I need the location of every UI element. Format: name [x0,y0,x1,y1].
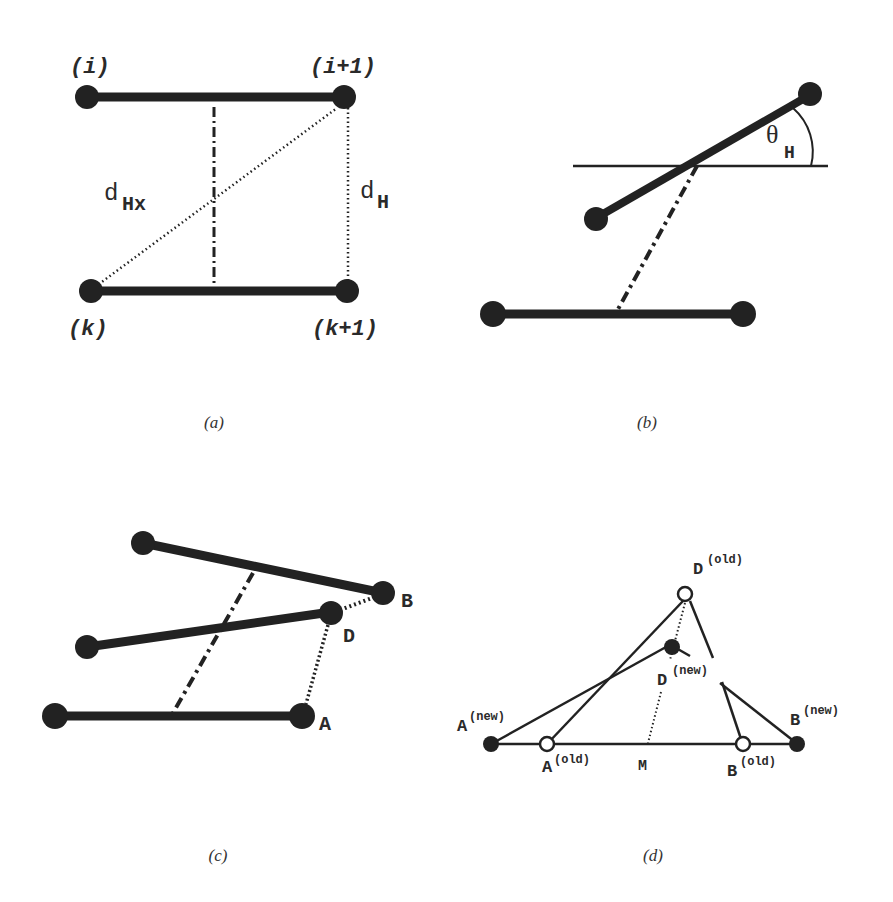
label-B-new-main: B [790,711,800,730]
label-B: B [401,590,413,613]
panel-c: B D A (c) [42,531,413,865]
node-A-new [483,736,499,752]
node-i [75,85,99,109]
node-B-new [789,736,805,752]
label-dH-sub: H [377,191,389,214]
label-i-plus-1: (i+1) [310,55,376,80]
node-D-old [678,587,692,601]
segment-tilted [596,95,810,218]
angle-arc [793,108,813,166]
node-B-old [736,737,750,751]
label-theta-sub: H [784,143,795,163]
node-tilted-bottom [584,207,608,231]
caption-a: (a) [204,413,224,432]
node-A [289,703,315,729]
panel-a: (i) (i+1) (k) (k+1) d Hx d H (a) [68,55,389,432]
dotted-to-M [648,692,661,743]
label-dHx-sub: Hx [122,193,146,216]
node-top-left [131,531,155,555]
node-bottom-left [480,301,506,327]
label-B-old-main: B [727,762,737,781]
node-D-new [664,639,680,655]
dotted-D-to-B [340,598,372,610]
edge-Anew-Dnew [493,647,666,743]
node-A-old [540,737,554,751]
label-D-old-sup: (old) [707,553,743,567]
label-M: M [638,758,647,775]
node-middle-left [75,635,99,659]
panel-b: θ H (b) [480,82,828,432]
dotted-D-to-A [306,625,328,704]
dashdot-connector [173,573,253,713]
label-theta-main: θ [766,120,778,149]
node-i-plus-1 [332,85,356,109]
label-A-new-main: A [457,717,468,736]
label-D-old-main: D [693,560,703,579]
label-dHx-main: d [104,180,118,207]
label-A-new-sup: (new) [469,710,505,724]
node-k [79,279,103,303]
dashdot-connector [617,166,697,311]
segment-middle [87,612,331,647]
node-tilted-top [798,82,822,106]
label-i: (i) [70,55,110,80]
node-k-plus-1 [335,279,359,303]
node-D [319,601,343,625]
node-bottom-right [730,301,756,327]
label-B-new-sup: (new) [803,704,839,718]
node-B [371,581,395,605]
label-k: (k) [68,317,108,342]
label-D-new-sup: (new) [672,664,708,678]
node-bottom-left [42,703,68,729]
label-A-old-sup: (old) [554,753,590,767]
label-D-new-main: D [657,671,667,690]
label-k-plus-1: (k+1) [312,317,378,342]
label-A: A [319,713,331,736]
caption-c: (c) [209,846,228,865]
label-B-old-sup: (old) [740,755,776,769]
label-dH-main: d [360,178,374,205]
edge-Dold-Bold-upper [690,601,713,658]
label-A-old-main: A [542,758,553,777]
label-D: D [343,625,355,648]
caption-d: (d) [643,846,663,865]
figure-canvas: (i) (i+1) (k) (k+1) d Hx d H (a) θ H (b) [0,0,893,902]
segment-top [143,543,383,593]
caption-b: (b) [637,413,657,432]
panel-d: A (new) A (old) M B (old) B (new) D (old… [457,553,839,865]
